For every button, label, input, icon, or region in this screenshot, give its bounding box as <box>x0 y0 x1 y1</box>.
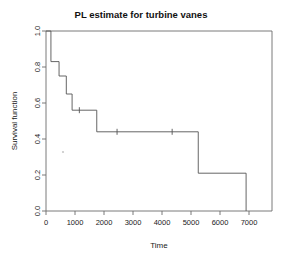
kaplan-meier-chart: PL estimate for turbine vanes 0.00.20.40… <box>0 0 283 263</box>
y-tick-label-1: 0.2 <box>33 170 42 180</box>
x-tick-label-0: 0 <box>44 218 48 227</box>
x-tick-label-5: 5000 <box>183 218 200 227</box>
x-tick-label-6: 6000 <box>212 218 229 227</box>
x-tick-label-2: 2000 <box>96 218 113 227</box>
page-title: PL estimate for turbine vanes <box>75 9 208 20</box>
y-tick-label-3: 0.6 <box>33 98 42 108</box>
x-tick-label-3: 3000 <box>125 218 142 227</box>
x-axis-title: Time <box>150 241 168 250</box>
x-tick-label-1: 1000 <box>67 218 84 227</box>
y-tick-label-2: 0.4 <box>33 134 42 144</box>
plot-root: PL estimate for turbine vanes 0.00.20.40… <box>0 0 283 263</box>
y-tick-label-4: 0.8 <box>33 62 42 72</box>
y-axis-title: Survival function <box>10 92 19 151</box>
x-tick-label-4: 4000 <box>154 218 171 227</box>
x-tick-label-7: 7000 <box>241 218 258 227</box>
y-tick-label-5: 1.0 <box>33 26 42 36</box>
scan-artifact-speck <box>62 151 64 153</box>
y-tick-label-0: 0.0 <box>33 206 42 216</box>
